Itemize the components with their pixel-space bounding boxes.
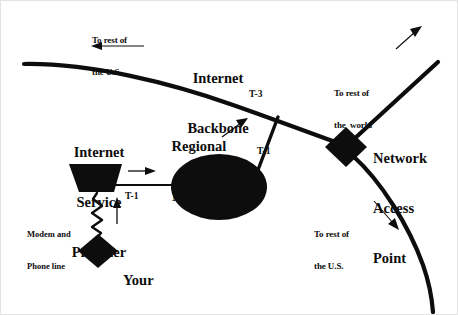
your-computer-label-line1: Your — [123, 272, 219, 289]
regional-network-label: Regional Network — [153, 105, 245, 238]
modem-phone-line-label: Modem and Phone line — [27, 208, 99, 293]
nap-label-line2: Access — [373, 200, 458, 217]
your-computer-label: Your Computer — [123, 239, 219, 315]
internet-backbone-label-line1: Internet — [169, 70, 267, 87]
regional-network-label-line2: Network — [153, 188, 245, 205]
to-rest-of-us-top-line1: To rest of — [92, 35, 172, 46]
modem-label-line2: Phone line — [27, 261, 99, 272]
arrow-to-rest-of-world-icon — [396, 26, 422, 49]
to-rest-of-us-top-line2: the U.S. — [92, 67, 172, 78]
link-label-t1-regional: T-1 — [257, 146, 270, 157]
to-rest-of-us-top-label: To rest of the U.S. — [92, 13, 172, 99]
link-label-t1-isp: T-1 — [125, 191, 138, 202]
link-label-t3: T-3 — [249, 89, 262, 100]
network-access-point-label: Network Access Point — [373, 117, 458, 300]
to-rest-of-world-line1: To rest of — [334, 88, 418, 99]
nap-label-line1: Network — [373, 150, 458, 167]
network-diagram: Internet Backbone To rest of the U.S. To… — [0, 0, 458, 315]
isp-label-line1: Internet — [53, 144, 145, 161]
regional-network-label-line1: Regional — [153, 138, 245, 155]
modem-label-line1: Modem and — [27, 229, 99, 240]
nap-label-line3: Point — [373, 250, 458, 267]
